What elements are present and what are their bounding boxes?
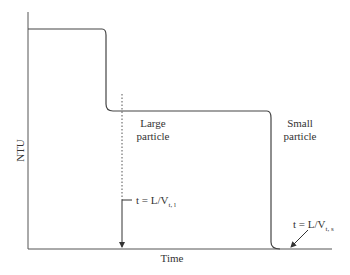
x-axis-label: Time bbox=[152, 252, 192, 265]
y-axis-label: NTU bbox=[14, 139, 27, 163]
t-large-subscript: t, l bbox=[168, 201, 175, 209]
large-label-line2: particle bbox=[128, 130, 178, 143]
t-large-annotation: t = L/Vt, l bbox=[136, 194, 176, 212]
small-particle-label: Small particle bbox=[275, 117, 325, 143]
large-label-line1: Large bbox=[128, 117, 178, 130]
large-particle-label: Large particle bbox=[128, 117, 178, 143]
small-label-line2: particle bbox=[275, 130, 325, 143]
t-small-text: t = L/V bbox=[293, 218, 325, 230]
small-label-line1: Small bbox=[275, 117, 325, 130]
t-small-annotation: t = L/Vt, s bbox=[293, 218, 334, 236]
t-large-text: t = L/V bbox=[136, 194, 168, 206]
t-small-subscript: t, s bbox=[325, 225, 333, 233]
